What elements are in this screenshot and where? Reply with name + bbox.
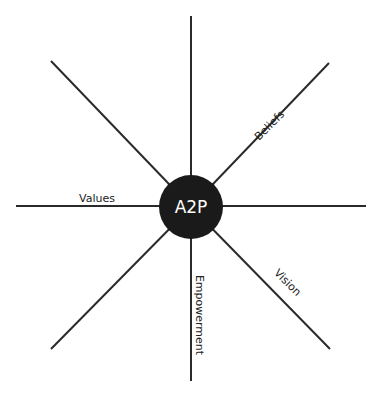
a2p-radial-diagram: A2P Beliefs Values Empowerment Vision (0, 0, 377, 394)
label-beliefs: Beliefs (252, 108, 287, 143)
label-empowerment: Empowerment (193, 275, 206, 356)
center-label: A2P (175, 197, 208, 217)
label-values: Values (79, 192, 115, 205)
